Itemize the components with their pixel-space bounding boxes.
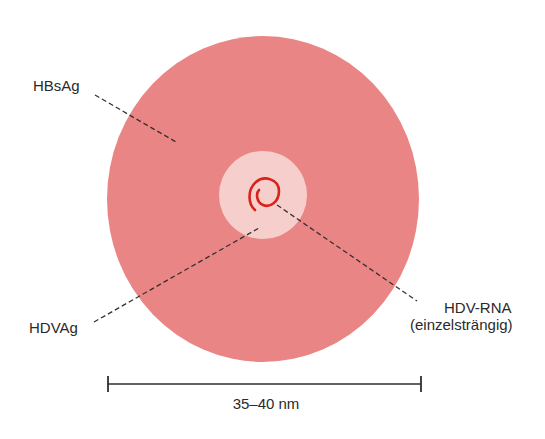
label-hbsag: HBsAg <box>33 77 80 94</box>
label-hdv-rna-name: HDV-RNA <box>433 299 543 316</box>
core-hdvag <box>219 151 307 239</box>
label-hdv-rna: HDV-RNA (einzelsträngig) <box>433 299 543 333</box>
hdv-particle-diagram <box>0 0 545 439</box>
label-hdvag: HDVAg <box>29 319 78 336</box>
label-hdv-rna-note: (einzelsträngig) <box>410 316 543 333</box>
scale-bar <box>108 376 421 392</box>
scale-bar-label: 35–40 nm <box>206 395 326 412</box>
